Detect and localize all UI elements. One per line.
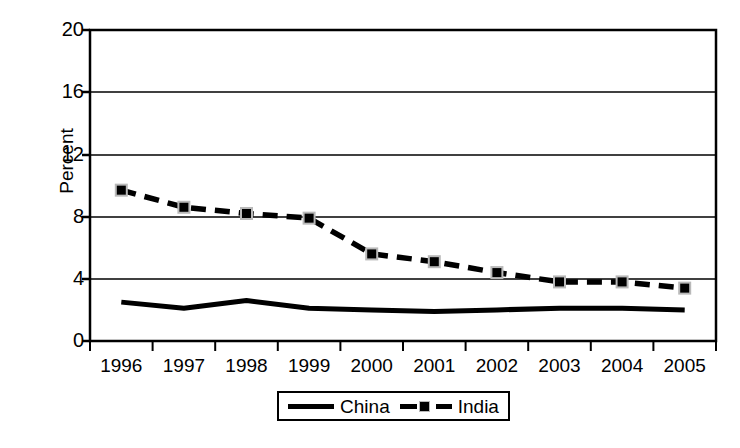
series-line-india: [121, 190, 684, 288]
data-point-marker: [116, 185, 127, 196]
legend-label-india: India: [458, 397, 499, 416]
x-tick-1998: 1998: [215, 355, 278, 377]
data-point-marker: [178, 202, 189, 213]
x-tick-2004: 2004: [591, 355, 654, 377]
chart-legend: China India: [277, 391, 510, 421]
data-point-marker: [679, 283, 690, 294]
data-point-marker: [304, 213, 315, 224]
legend-item-india: India: [400, 397, 499, 416]
data-point-marker: [241, 208, 252, 219]
dashed-line-square-marker-swatch-icon: [400, 401, 452, 412]
x-tick-2002: 2002: [466, 355, 529, 377]
data-point-marker: [491, 267, 502, 278]
line-chart: Percent 20 16 12 8 4 0: [0, 0, 740, 448]
legend-label-china: China: [340, 397, 390, 416]
x-tick-2003: 2003: [528, 355, 591, 377]
series-markers-india: [116, 185, 690, 294]
x-tick-2005: 2005: [653, 355, 716, 377]
x-tick-1999: 1999: [278, 355, 341, 377]
x-tickmarks: [90, 341, 716, 351]
legend-item-china: China: [288, 397, 390, 416]
x-tick-1997: 1997: [153, 355, 216, 377]
data-point-marker: [617, 276, 628, 287]
series-line-china: [121, 301, 684, 312]
x-tick-2000: 2000: [340, 355, 403, 377]
x-tick-1996: 1996: [90, 355, 153, 377]
data-point-marker: [554, 276, 565, 287]
plot-frame: [90, 30, 716, 341]
x-tick-2001: 2001: [403, 355, 466, 377]
data-point-marker: [429, 256, 440, 267]
solid-line-swatch-icon: [288, 404, 334, 409]
data-point-marker: [366, 248, 377, 259]
